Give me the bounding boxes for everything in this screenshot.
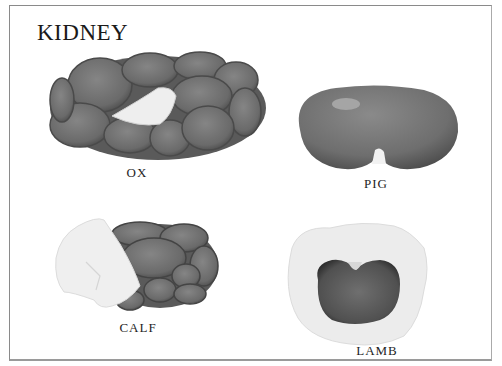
label-pig: PIG	[364, 176, 388, 192]
lamb-kidney-image	[288, 223, 427, 345]
label-lamb: LAMB	[356, 343, 398, 359]
label-ox: OX	[127, 165, 148, 181]
calf-kidney-image	[56, 219, 218, 310]
pig-kidney-image	[299, 85, 458, 169]
ox-kidney-image	[50, 52, 266, 160]
kidney-illustrations	[0, 0, 502, 366]
label-calf: CALF	[119, 320, 156, 336]
